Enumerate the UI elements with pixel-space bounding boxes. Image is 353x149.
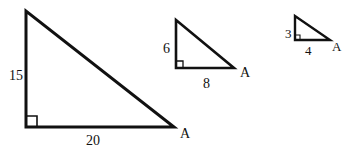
- right-angle-marker-large: [26, 116, 37, 127]
- label-medium-vertex-a: A: [240, 65, 251, 80]
- triangle-large: 15 20 A: [9, 11, 191, 148]
- triangle-small: 3 4 A: [285, 16, 342, 58]
- triangle-medium-outline: [176, 20, 234, 68]
- label-large-vertical-leg: 15: [9, 68, 23, 83]
- label-medium-horizontal-leg: 8: [203, 76, 210, 91]
- label-medium-vertical-leg: 6: [163, 41, 170, 56]
- label-small-vertex-a: A: [332, 39, 342, 54]
- label-small-horizontal-leg: 4: [305, 43, 312, 58]
- label-large-vertex-a: A: [180, 126, 191, 141]
- similar-triangles-diagram: 15 20 A 6 8 A 3 4 A: [0, 0, 353, 149]
- triangle-large-outline: [26, 11, 174, 127]
- triangle-medium: 6 8 A: [163, 20, 251, 91]
- label-small-vertical-leg: 3: [285, 26, 292, 41]
- label-large-horizontal-leg: 20: [86, 133, 100, 148]
